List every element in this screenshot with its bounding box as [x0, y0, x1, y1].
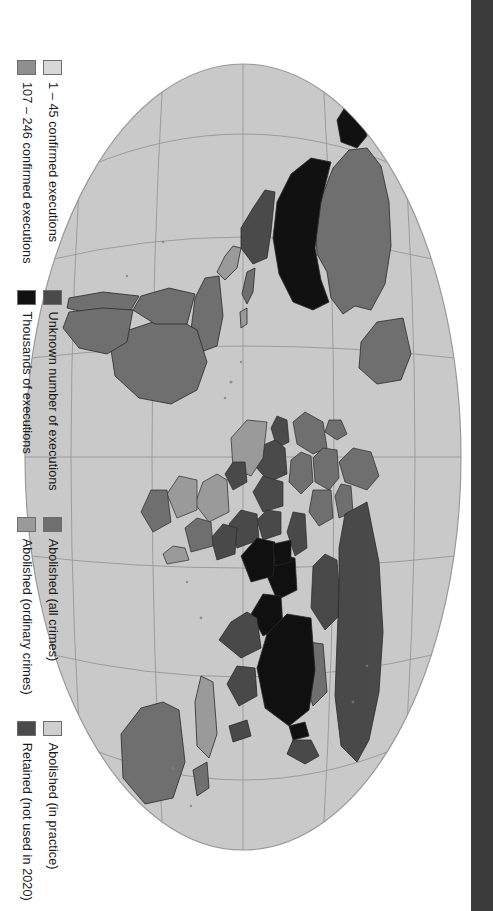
legend-label-retained: Retained (not used in 2020) [20, 743, 34, 901]
legend-label-unknown: Unknown number of executions [46, 312, 60, 491]
world-map [23, 62, 463, 852]
country-hispaniola [240, 308, 247, 328]
swatch-thousands-icon [18, 290, 37, 305]
figure-edge-bar-gap [467, 0, 471, 911]
swatch-retained-icon [18, 721, 37, 736]
legend-column-4: Abolished (in practice) Retained (not us… [17, 721, 63, 901]
legend-item-unknown[interactable]: Unknown number of executions [43, 290, 63, 491]
country-new-zealand [111, 824, 133, 842]
legend-item-retained[interactable]: Retained (not used in 2020) [17, 721, 37, 901]
legend-item-107-246[interactable]: 107 – 246 confirmed executions [17, 60, 37, 264]
legend-item-abolished-practice[interactable]: Abolished (in practice) [43, 721, 63, 901]
swatch-abolished-ordinary-icon [18, 517, 37, 532]
legend-label-abolished-all: Abolished (all crimes) [46, 539, 60, 662]
world-map-svg [23, 62, 463, 852]
swatch-107-246-icon [18, 60, 37, 75]
legend-item-1-45[interactable]: 1 – 45 confirmed executions [43, 60, 63, 264]
map-legend: 1 – 45 confirmed executions 107 – 246 co… [3, 60, 63, 860]
legend-label-107-246: 107 – 246 confirmed executions [20, 82, 34, 264]
figure-canvas: 1 – 45 confirmed executions 107 – 246 co… [0, 0, 493, 911]
swatch-abolished-practice-icon [44, 721, 63, 736]
swatch-unknown-icon [44, 290, 63, 305]
legend-item-abolished-all[interactable]: Abolished (all crimes) [43, 517, 63, 695]
legend-column-2: Unknown number of executions Thousands o… [17, 290, 63, 491]
legend-label-abolished-ordinary: Abolished (ordinary crimes) [20, 539, 34, 695]
legend-column-3: Abolished (all crimes) Abolished (ordina… [17, 517, 63, 695]
legend-item-abolished-ordinary[interactable]: Abolished (ordinary crimes) [17, 517, 37, 695]
legend-label-thousands: Thousands of executions [20, 312, 34, 454]
legend-column-1: 1 – 45 confirmed executions 107 – 246 co… [17, 60, 63, 264]
swatch-abolished-all-icon [44, 517, 63, 532]
legend-label-1-45: 1 – 45 confirmed executions [46, 82, 60, 242]
legend-label-abolished-practice: Abolished (in practice) [46, 743, 60, 870]
legend-item-thousands[interactable]: Thousands of executions [17, 290, 37, 491]
figure-edge-bar [471, 0, 493, 911]
country-iraq [273, 540, 291, 566]
swatch-1-45-icon [44, 60, 63, 75]
